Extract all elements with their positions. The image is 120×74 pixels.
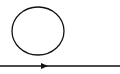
arrowhead-right-icon	[41, 63, 48, 69]
diagram-canvas	[0, 0, 120, 74]
circle-shape	[12, 7, 64, 55]
